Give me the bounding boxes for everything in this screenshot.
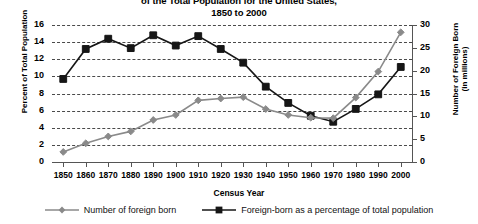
series-line bbox=[63, 32, 401, 152]
data-point-marker bbox=[217, 46, 224, 53]
y-axis-right-title-line-2: (in millions) bbox=[460, 9, 469, 129]
series-line bbox=[63, 35, 401, 121]
legend-item[interactable]: Foreign-born as a percentage of total po… bbox=[202, 205, 433, 215]
y-axis-left-tick-label: 16 bbox=[14, 19, 44, 29]
data-point-marker bbox=[217, 95, 224, 102]
x-axis-tick-mark bbox=[378, 162, 379, 167]
data-point-marker bbox=[240, 59, 247, 66]
y-axis-right-tick-label: 25 bbox=[420, 42, 446, 52]
x-axis-tick-mark bbox=[401, 162, 402, 167]
x-axis-tick-mark bbox=[356, 162, 357, 167]
legend-label: Number of foreign born bbox=[84, 205, 177, 215]
y-axis-right-tick-mark bbox=[412, 71, 417, 72]
y-axis-right-tick-label: 5 bbox=[420, 133, 446, 143]
series-percent-foreign-born bbox=[60, 32, 404, 125]
data-point-marker bbox=[150, 117, 157, 124]
y-axis-right-title: Number of Foreign Born (in millions) bbox=[451, 9, 469, 129]
data-point-marker bbox=[150, 32, 157, 39]
x-axis-title: Census Year bbox=[0, 188, 478, 198]
data-point-marker bbox=[240, 94, 247, 101]
x-axis-tick-mark bbox=[221, 162, 222, 167]
series-layer bbox=[52, 25, 412, 163]
x-axis-tick-mark bbox=[176, 162, 177, 167]
legend-label: Foreign-born as a percentage of total po… bbox=[241, 205, 433, 215]
data-point-marker bbox=[82, 140, 89, 147]
data-point-marker bbox=[397, 29, 404, 36]
y-axis-left-tick-label: 12 bbox=[14, 53, 44, 63]
chart-container: of the Total Population for the United S… bbox=[0, 0, 478, 224]
y-axis-right-tick-label: 20 bbox=[420, 65, 446, 75]
y-axis-right-title-line-1: Number of Foreign Born bbox=[451, 9, 460, 129]
x-axis-tick-mark bbox=[108, 162, 109, 167]
data-point-marker bbox=[105, 35, 112, 42]
data-point-marker bbox=[172, 42, 179, 49]
y-axis-right-tick-mark bbox=[412, 116, 417, 117]
x-axis-tick-mark bbox=[198, 162, 199, 167]
y-axis-right-tick-mark bbox=[412, 25, 417, 26]
y-axis-right-tick-label: 0 bbox=[420, 156, 446, 166]
y-axis-left-tick-label: 14 bbox=[14, 36, 44, 46]
x-axis-tick-mark bbox=[63, 162, 64, 167]
data-point-marker bbox=[60, 76, 67, 83]
data-point-marker bbox=[195, 33, 202, 40]
data-point-marker bbox=[375, 91, 382, 98]
y-axis-left-tick-label: 6 bbox=[14, 105, 44, 115]
x-axis-tick-mark bbox=[333, 162, 334, 167]
data-point-marker bbox=[285, 112, 292, 119]
data-point-marker bbox=[82, 46, 89, 53]
series-number-foreign-born bbox=[60, 29, 404, 155]
data-point-marker bbox=[262, 83, 269, 90]
data-point-marker bbox=[397, 64, 404, 71]
x-axis-tick-mark bbox=[243, 162, 244, 167]
legend-diamond-marker-icon bbox=[45, 205, 79, 215]
y-axis-right-tick-label: 30 bbox=[420, 19, 446, 29]
legend-item[interactable]: Number of foreign born bbox=[45, 205, 177, 215]
y-axis-left-tick-label: 8 bbox=[14, 88, 44, 98]
x-axis-tick-label: 2000 bbox=[384, 170, 418, 180]
y-axis-right-tick-mark bbox=[412, 94, 417, 95]
x-axis-tick-mark bbox=[311, 162, 312, 167]
data-point-marker bbox=[60, 149, 67, 156]
chart-legend: Number of foreign bornForeign-born as a … bbox=[0, 205, 478, 215]
data-point-marker bbox=[105, 133, 112, 140]
y-axis-left-tick-label: 0 bbox=[14, 156, 44, 166]
x-axis-tick-mark bbox=[288, 162, 289, 167]
x-axis-tick-mark bbox=[131, 162, 132, 167]
y-axis-right-tick-mark bbox=[412, 48, 417, 49]
data-point-marker bbox=[127, 128, 134, 135]
y-axis-right-tick-label: 15 bbox=[420, 88, 446, 98]
chart-title-line-2: 1850 to 2000 bbox=[0, 7, 478, 18]
y-axis-right-tick-mark bbox=[412, 139, 417, 140]
data-point-marker bbox=[352, 106, 359, 113]
x-axis-tick-mark bbox=[86, 162, 87, 167]
x-axis-tick-mark bbox=[266, 162, 267, 167]
data-point-marker bbox=[127, 45, 134, 52]
y-axis-right-tick-mark bbox=[412, 162, 417, 163]
y-axis-right-tick-label: 10 bbox=[420, 110, 446, 120]
data-point-marker bbox=[285, 100, 292, 107]
y-axis-left-tick-label: 2 bbox=[14, 139, 44, 149]
chart-title-line-1: of the Total Population for the United S… bbox=[0, 0, 478, 6]
x-axis-tick-mark bbox=[153, 162, 154, 167]
legend-square-marker-icon bbox=[202, 205, 236, 215]
data-point-marker bbox=[262, 106, 269, 113]
y-axis-left-tick-label: 10 bbox=[14, 70, 44, 80]
y-axis-left-tick-label: 4 bbox=[14, 122, 44, 132]
